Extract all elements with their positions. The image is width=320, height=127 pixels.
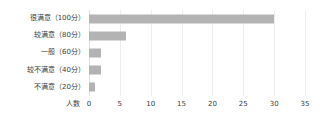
- bar-series: [89, 10, 305, 96]
- category-label: 一般（60分）: [0, 44, 85, 61]
- category-label: 不满意（20分）: [0, 79, 85, 96]
- bar: [89, 48, 101, 57]
- bar: [89, 14, 274, 23]
- bar: [89, 31, 126, 40]
- bar: [89, 83, 95, 92]
- bar-row: [89, 10, 305, 27]
- gridline-35: [305, 10, 306, 96]
- category-label: 较不满意（40分）: [0, 62, 85, 79]
- x-tick-label-35: 35: [295, 99, 315, 109]
- bar-row: [89, 27, 305, 44]
- x-tick-label-30: 30: [264, 99, 284, 109]
- x-tick-label-25: 25: [233, 99, 253, 109]
- x-tick-label-5: 5: [110, 99, 130, 109]
- bar-row: [89, 62, 305, 79]
- x-tick-label-10: 10: [141, 99, 161, 109]
- bar: [89, 66, 101, 75]
- category-axis-labels: 很满意（100分）较满意（80分）一般（60分）较不满意（40分）不满意（20分…: [0, 10, 85, 96]
- x-tick-label-20: 20: [202, 99, 222, 109]
- x-tick-label-15: 15: [172, 99, 192, 109]
- bar-row: [89, 79, 305, 96]
- category-label: 很满意（100分）: [0, 10, 85, 27]
- plot-area: [89, 10, 305, 96]
- x-tick-label-0: 0: [79, 99, 99, 109]
- x-axis-title: 人数: [44, 99, 80, 109]
- horizontal-bar-chart: 很满意（100分）较满意（80分）一般（60分）较不满意（40分）不满意（20分…: [0, 0, 320, 127]
- category-label: 较满意（80分）: [0, 27, 85, 44]
- bar-row: [89, 44, 305, 61]
